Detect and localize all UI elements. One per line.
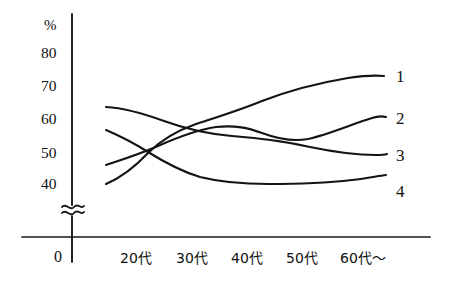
chart-container: % 80 70 60 50 40 0 20代 30代 40代 50代 60代～ … xyxy=(0,0,452,288)
axis-break-icon xyxy=(62,205,84,214)
line-chart: % 80 70 60 50 40 0 20代 30代 40代 50代 60代～ … xyxy=(0,0,452,288)
x-tick-label-60s: 60代～ xyxy=(340,250,386,266)
series-label-2: 2 xyxy=(396,109,405,128)
series-label-3: 3 xyxy=(396,146,405,165)
series-line-2 xyxy=(106,116,386,165)
x-tick-label-20s: 20代 xyxy=(120,250,152,266)
y-tick-label-40: 40 xyxy=(41,175,57,192)
y-tick-label-50: 50 xyxy=(41,144,57,161)
series-line-3 xyxy=(106,107,387,155)
y-tick-label-80: 80 xyxy=(41,44,57,61)
series-label-4: 4 xyxy=(396,182,405,201)
y-axis-unit-label: % xyxy=(44,17,57,33)
y-tick-label-70: 70 xyxy=(41,77,57,94)
x-tick-label-50s: 50代 xyxy=(286,250,318,266)
series-label-1: 1 xyxy=(396,67,405,86)
x-tick-label-30s: 30代 xyxy=(176,250,208,266)
x-tick-label-40s: 40代 xyxy=(231,250,263,266)
origin-label: 0 xyxy=(54,248,62,265)
y-tick-label-60: 60 xyxy=(41,110,57,127)
series-line-1 xyxy=(106,76,384,184)
